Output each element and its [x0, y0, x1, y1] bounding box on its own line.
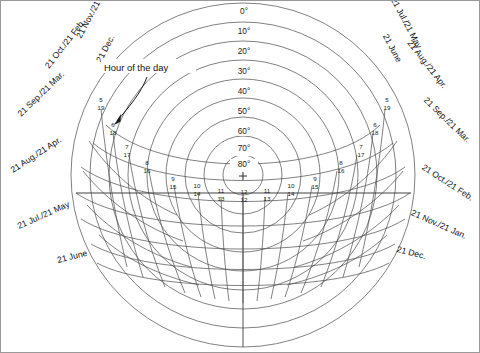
date-labels-left: 21 Dec. 21 Nov./21 Jan. 21 Oct./21 Feb. … — [9, 1, 117, 265]
hour-lines — [101, 109, 385, 303]
hour-label-7: 7 — [125, 143, 129, 150]
date-label-right-21-dec: 21 Dec. — [396, 244, 427, 261]
hour-label-12-top: 12 — [241, 188, 248, 195]
hour-label-8-right: 8 — [339, 159, 343, 166]
date-label-right-21-nov-21-jan: 21 Nov./21 Jan. — [410, 207, 468, 240]
hour-labels-center: 12 12 — [241, 188, 248, 203]
hour-label-14: 14 — [194, 190, 201, 197]
hour-label-13-right: 13 — [264, 195, 271, 202]
date-label-left-21-june: 21 June — [56, 248, 88, 265]
altitude-label-10: 10° — [238, 26, 251, 36]
date-label-left-21-jul-21-may: 21 Jul./21 May — [16, 199, 72, 231]
date-label-left-21-aug-21-apr: 21 Aug./21 Apr. — [9, 135, 63, 175]
hour-label-10-right: 10 — [288, 182, 295, 189]
hour-label-5: 5 — [99, 96, 103, 103]
hour-label-16: 16 — [144, 167, 151, 174]
hour-label-5-right: 5 — [385, 96, 389, 103]
hour-label-11-right: 11 — [264, 187, 271, 194]
hour-label-17-right: 17 — [358, 151, 365, 158]
date-label-left-21-sep-21-mar: 21 Sep./21 Mar. — [15, 69, 66, 118]
hour-label-9: 9 — [171, 175, 175, 182]
altitude-label-50: 50° — [238, 106, 251, 116]
altitude-label-80: 80° — [238, 159, 251, 169]
date-label-left-21-oct-21-feb: 21 Oct./21 Feb. — [43, 17, 87, 70]
altitude-label-60: 60° — [238, 126, 251, 136]
hour-label-7-right: 7 — [359, 143, 363, 150]
hour-labels-right: 5 19 6 18 7 17 8 16 9 15 10 14 11 13 — [264, 96, 391, 202]
hour-label-15: 15 — [170, 183, 177, 190]
hour-label-11: 11 — [218, 187, 225, 194]
hour-line-upper-c — [83, 171, 183, 241]
hour-of-the-day-annotation: Hour of the day — [101, 59, 196, 125]
altitude-label-20: 20° — [238, 46, 251, 56]
date-label-right-21-june: 21 June — [381, 32, 404, 64]
altitude-label-0: 0° — [240, 6, 248, 16]
hour-label-9-right: 9 — [313, 175, 317, 182]
hour-label-18-right: 18 — [372, 129, 379, 136]
chart-canvas: 0° 10° 20° 30° 40° 50° 60° 70° 80° 5 19 … — [1, 1, 480, 353]
hour-label-10: 10 — [194, 182, 201, 189]
hour-label-18: 18 — [110, 129, 117, 136]
annotation-arrowhead — [114, 114, 121, 125]
hour-label-17: 17 — [124, 151, 131, 158]
hour-label-15-right: 15 — [312, 183, 319, 190]
hour-label-14-right: 14 — [288, 190, 295, 197]
altitude-label-40: 40° — [238, 86, 251, 96]
reference-lines — [76, 193, 411, 347]
date-label-right-21-oct-21-feb: 21 Oct./21 Feb. — [420, 162, 475, 203]
hour-label-13: 13 — [218, 195, 225, 202]
hour-line-upper-d — [303, 171, 403, 241]
hour-label-12-bottom: 12 — [241, 196, 248, 203]
altitude-label-70: 70° — [238, 143, 251, 153]
altitude-label-30: 30° — [238, 66, 251, 76]
annotation-arrow — [117, 77, 147, 121]
hour-label-19-right: 19 — [384, 104, 391, 111]
hour-label-8: 8 — [145, 159, 149, 166]
sun-path-diagram: 0° 10° 20° 30° 40° 50° 60° 70° 80° 5 19 … — [0, 0, 480, 353]
altitude-labels: 0° 10° 20° 30° 40° 50° 60° 70° 80° — [238, 6, 251, 169]
date-labels-right: 21 June 21 Jul./21 May 21 Aug./21 Apr. 2… — [381, 1, 475, 261]
date-label-right-21-aug-21-apr: 21 Aug./21 Apr. — [406, 38, 450, 90]
hour-of-the-day-label: Hour of the day — [104, 62, 168, 73]
hour-label-16-right: 16 — [338, 167, 345, 174]
date-label-right-21-sep-21-mar: 21 Sep./21 Mar. — [422, 95, 473, 144]
hour-label-6-right: 6 — [373, 121, 377, 128]
zenith-center-marker — [239, 172, 247, 180]
hour-label-19: 19 — [98, 104, 105, 111]
